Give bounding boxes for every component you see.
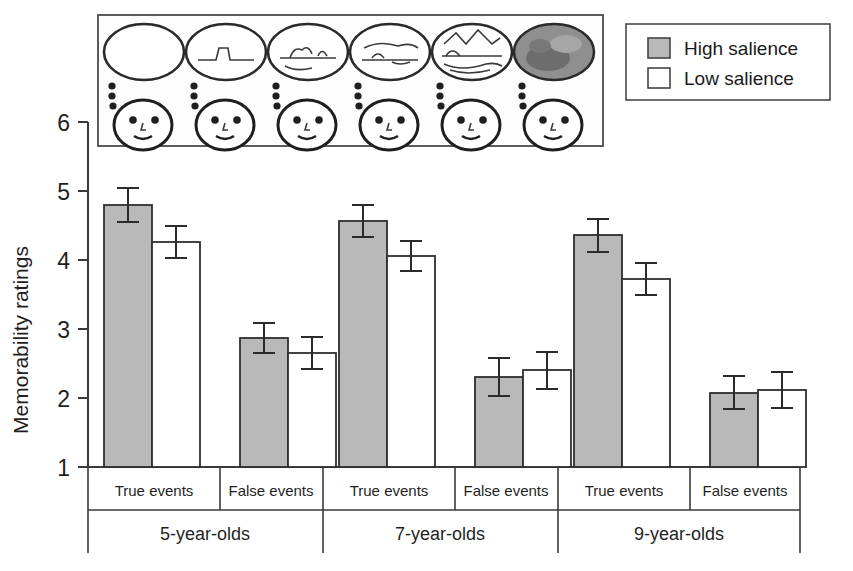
- age-group-label-7: 7-year-olds: [395, 524, 485, 544]
- inset-illustration: [98, 15, 603, 150]
- condition-label-row: True events False events True events Fal…: [88, 467, 800, 510]
- y-tick-label-1: 1: [57, 455, 70, 481]
- condition-label-7yo-true: True events: [350, 482, 429, 499]
- eye: [233, 116, 241, 124]
- bubble-dot: [518, 92, 525, 99]
- bar-5yo-false-low[interactable]: [288, 353, 336, 467]
- error-bars: [117, 188, 793, 409]
- eye: [479, 116, 487, 124]
- bubble-dot: [273, 102, 280, 109]
- bar-7yo-true-high[interactable]: [339, 221, 387, 467]
- bubble-dot: [519, 102, 526, 109]
- eye: [129, 116, 137, 124]
- eye: [293, 116, 301, 124]
- bubble-dot: [190, 92, 197, 99]
- thought-bubble-5: [432, 24, 512, 80]
- bubble-photo-highlight-6: [550, 35, 582, 53]
- bubble-photo-shade-6b: [529, 39, 551, 53]
- bubble-dot: [436, 82, 443, 89]
- chart-legend: High salience Low salience: [626, 24, 830, 100]
- thought-bubble-1: [104, 24, 184, 80]
- condition-label-5yo-true: True events: [115, 482, 194, 499]
- eye: [315, 116, 323, 124]
- eye: [211, 116, 219, 124]
- thought-bubble-2: [186, 24, 266, 80]
- bubble-dot: [436, 92, 443, 99]
- eye: [539, 116, 547, 124]
- bar-5yo-true-low[interactable]: [152, 242, 200, 467]
- bubble-dot: [272, 92, 279, 99]
- eye: [397, 116, 405, 124]
- memorability-ratings-figure: High salience Low salience 6 5 4 3 2 1 M…: [0, 0, 853, 571]
- condition-label-7yo-false: False events: [463, 482, 548, 499]
- condition-label-9yo-true: True events: [585, 482, 664, 499]
- bubble-dot: [108, 82, 115, 89]
- y-tick-label-6: 6: [57, 110, 70, 136]
- eye: [375, 116, 383, 124]
- y-tick-label-5: 5: [57, 179, 70, 205]
- bars-group-7-year-olds: [339, 221, 571, 467]
- y-axis-title: Memorability ratings: [9, 246, 32, 434]
- condition-label-5yo-false: False events: [228, 482, 313, 499]
- bars-group-9-year-olds: [574, 235, 806, 467]
- bubble-dot: [272, 82, 279, 89]
- chart-svg: High salience Low salience 6 5 4 3 2 1 M…: [0, 0, 853, 571]
- bubble-dot: [437, 102, 444, 109]
- bubble-dot: [190, 82, 197, 89]
- eye: [457, 116, 465, 124]
- y-axis: 6 5 4 3 2 1 Memorability ratings: [9, 110, 88, 481]
- bubble-dot: [354, 82, 361, 89]
- age-group-label-9: 9-year-olds: [634, 524, 724, 544]
- age-group-label-5: 5-year-olds: [160, 524, 250, 544]
- y-tick-label-4: 4: [57, 248, 70, 274]
- legend-swatch-low-salience: [648, 68, 670, 88]
- bar-5yo-false-high[interactable]: [240, 338, 288, 467]
- eye: [151, 116, 159, 124]
- y-tick-label-3: 3: [57, 317, 70, 343]
- thought-bubble-4: [350, 24, 430, 80]
- bubble-dot: [191, 102, 198, 109]
- legend-swatch-high-salience: [648, 38, 670, 58]
- eye: [561, 116, 569, 124]
- bar-9yo-true-high[interactable]: [574, 235, 622, 467]
- bubble-dot: [518, 82, 525, 89]
- bar-7yo-true-low[interactable]: [387, 256, 435, 467]
- bubble-dot: [109, 102, 116, 109]
- bubble-dot: [354, 92, 361, 99]
- legend-label-high-salience: High salience: [684, 38, 798, 59]
- condition-label-9yo-false: False events: [702, 482, 787, 499]
- legend-label-low-salience: Low salience: [684, 68, 794, 89]
- bar-9yo-true-low[interactable]: [622, 279, 670, 467]
- bubble-dot: [108, 92, 115, 99]
- bubble-dot: [355, 102, 362, 109]
- thought-bubble-3: [268, 24, 348, 80]
- y-tick-label-2: 2: [57, 386, 70, 412]
- age-group-label-row: 5-year-olds 7-year-olds 9-year-olds: [88, 510, 800, 553]
- bar-5yo-true-high[interactable]: [104, 205, 152, 467]
